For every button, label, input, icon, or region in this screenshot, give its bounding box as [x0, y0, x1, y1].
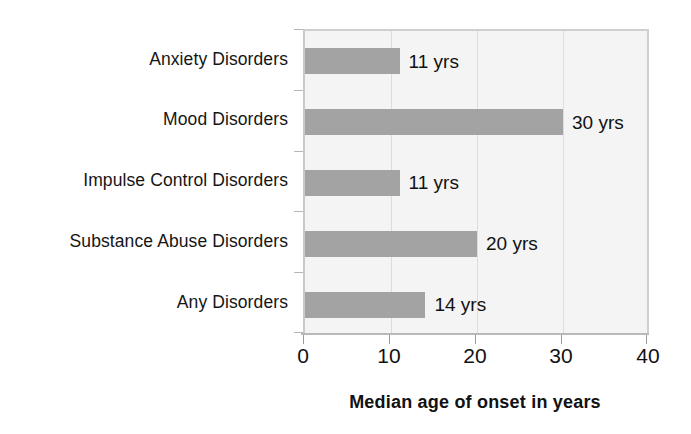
bar-substance-abuse-disorders — [305, 231, 477, 257]
category-axis-labels: Anxiety Disorders Mood Disorders Impulse… — [0, 29, 297, 333]
bar-any-disorders — [305, 292, 425, 318]
x-axis-tick-label-0: 0 — [297, 345, 309, 366]
y-axis-tick — [294, 211, 303, 212]
y-axis-tick — [294, 29, 303, 30]
y-axis-tick — [294, 272, 303, 273]
x-axis-tick-20 — [475, 335, 476, 344]
bar-value-impulse-control-disorders: 11 yrs — [409, 173, 459, 192]
bar-series: 11 yrs 30 yrs 11 yrs 20 yrs 14 yrs — [305, 31, 649, 335]
x-axis-tick-label-10: 10 — [377, 345, 400, 366]
bar-chart-figure: Anxiety Disorders Mood Disorders Impulse… — [0, 0, 691, 434]
x-axis-tick-marks — [303, 335, 647, 344]
category-label-mood-disorders: Mood Disorders — [163, 111, 288, 129]
x-axis-tick-0 — [303, 335, 304, 344]
x-axis-tick-label-30: 30 — [549, 345, 572, 366]
plot-area: 11 yrs 30 yrs 11 yrs 20 yrs 14 yrs — [303, 29, 649, 335]
category-label-anxiety-disorders: Anxiety Disorders — [149, 51, 288, 69]
bar-value-mood-disorders: 30 yrs — [572, 113, 624, 132]
x-axis-tick-labels: 0 10 20 30 40 — [303, 345, 647, 373]
x-axis-tick-10 — [389, 335, 390, 344]
category-label-any-disorders: Any Disorders — [177, 294, 288, 312]
x-axis-tick-40 — [646, 335, 647, 344]
bar-value-anxiety-disorders: 11 yrs — [409, 52, 459, 71]
bar-row-any-disorders: 14 yrs — [305, 274, 649, 335]
x-axis-tick-30 — [561, 335, 562, 344]
x-axis-title: Median age of onset in years — [303, 392, 647, 413]
bar-value-any-disorders: 14 yrs — [434, 295, 486, 314]
category-label-row: Impulse Control Disorders — [0, 151, 297, 212]
y-axis-tick — [294, 90, 303, 91]
category-label-row: Mood Disorders — [0, 90, 297, 151]
bar-row-substance-abuse-disorders: 20 yrs — [305, 213, 649, 274]
category-label-row: Anxiety Disorders — [0, 29, 297, 90]
bar-row-anxiety-disorders: 11 yrs — [305, 31, 649, 92]
x-axis-tick-label-20: 20 — [463, 345, 486, 366]
bar-row-impulse-control-disorders: 11 yrs — [305, 153, 649, 214]
category-label-row: Any Disorders — [0, 272, 297, 333]
bar-mood-disorders — [305, 109, 563, 135]
category-label-impulse-control-disorders: Impulse Control Disorders — [83, 172, 288, 190]
y-axis-tick — [294, 151, 303, 152]
category-label-row: Substance Abuse Disorders — [0, 211, 297, 272]
bar-row-mood-disorders: 30 yrs — [305, 92, 649, 153]
x-axis-tick-label-40: 40 — [636, 345, 659, 366]
category-label-substance-abuse-disorders: Substance Abuse Disorders — [70, 233, 288, 251]
bar-value-substance-abuse-disorders: 20 yrs — [486, 234, 538, 253]
bar-impulse-control-disorders — [305, 170, 400, 196]
y-axis-tick-marks — [294, 29, 303, 333]
bar-anxiety-disorders — [305, 48, 400, 74]
